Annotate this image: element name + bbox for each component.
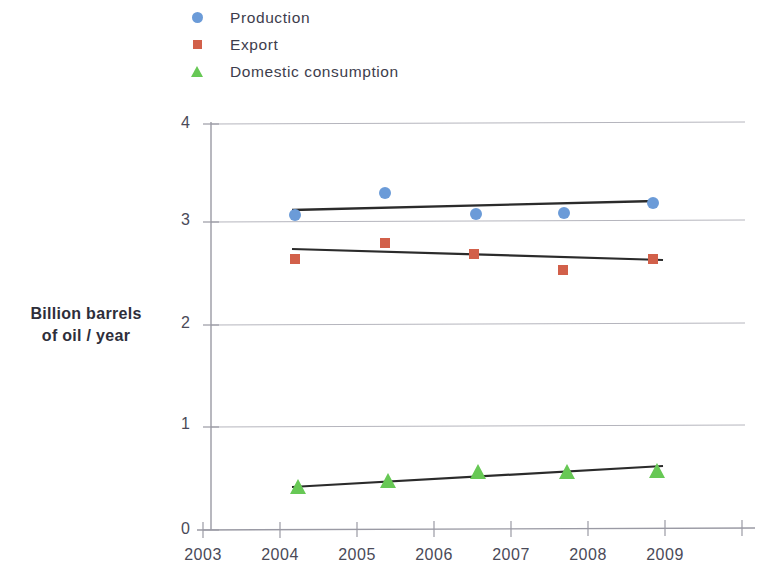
domestic-consumption-series (290, 463, 665, 494)
export-series (290, 238, 658, 275)
production-series (289, 187, 659, 221)
plot-area (0, 0, 778, 578)
data-point (290, 254, 300, 264)
data-point (558, 207, 570, 219)
data-point (379, 187, 391, 199)
oil-production-chart: Production Export Domestic consumption B… (0, 0, 778, 578)
data-point (648, 254, 658, 264)
gridlines (211, 122, 745, 427)
data-point (470, 208, 482, 220)
data-point (647, 197, 659, 209)
data-point (289, 209, 301, 221)
data-point (470, 464, 486, 479)
x-axis-line (197, 528, 755, 530)
data-point (558, 265, 568, 275)
data-point (380, 238, 390, 248)
data-point (469, 249, 479, 259)
